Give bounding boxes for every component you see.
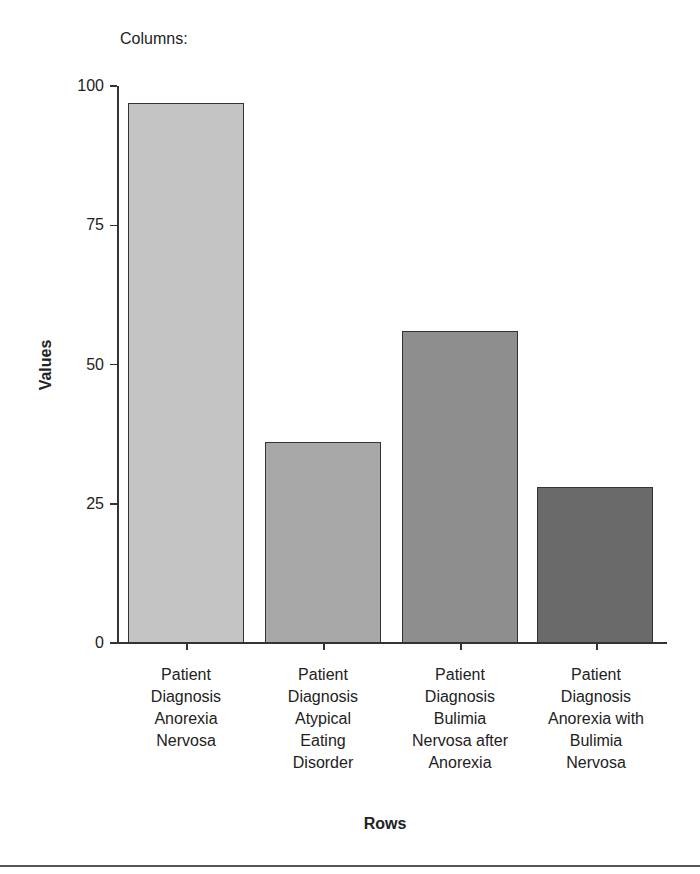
bar — [128, 103, 244, 643]
x-tick — [596, 643, 598, 650]
y-tick — [110, 364, 117, 366]
x-tick — [460, 643, 462, 650]
x-category-label: Patient Diagnosis Anorexia with Bulimia … — [526, 664, 666, 774]
y-tick-label: 0 — [64, 634, 104, 652]
y-tick — [110, 225, 117, 227]
bar — [265, 442, 381, 643]
x-category-label: Patient Diagnosis Anorexia Nervosa — [116, 664, 256, 752]
x-category-label: Patient Diagnosis Bulimia Nervosa after … — [390, 664, 530, 774]
y-tick — [110, 642, 117, 644]
x-category-label: Patient Diagnosis Atypical Eating Disord… — [253, 664, 393, 774]
y-tick — [110, 503, 117, 505]
bar — [537, 487, 653, 643]
y-tick — [110, 85, 117, 87]
bar — [402, 331, 518, 643]
columns-legend-title: Columns: — [120, 30, 188, 48]
y-axis-title: Values — [37, 340, 55, 391]
y-tick-label: 50 — [64, 356, 104, 374]
x-tick — [323, 643, 325, 650]
bottom-divider — [0, 865, 700, 867]
y-tick-label: 75 — [64, 216, 104, 234]
y-axis-line — [117, 86, 119, 643]
y-tick-label: 25 — [64, 495, 104, 513]
x-tick — [186, 643, 188, 650]
x-axis-title: Rows — [364, 815, 407, 833]
y-tick-label: 100 — [64, 77, 104, 95]
